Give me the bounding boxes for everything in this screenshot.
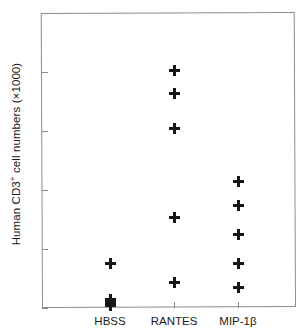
y-tick-mark xyxy=(42,249,48,250)
y-axis-label-superscript: + xyxy=(8,176,17,181)
y-axis-label: Human CD3+ cell numbers (×1000) xyxy=(10,14,22,294)
x-tick-mark xyxy=(238,302,239,308)
y-tick-mark xyxy=(42,13,48,14)
y-axis-label-suffix: cell numbers (×1000) xyxy=(10,63,22,177)
y-tick-mark xyxy=(42,131,48,132)
y-tick-mark xyxy=(42,308,48,309)
y-axis-label-prefix: Human CD3 xyxy=(10,181,22,245)
y-tick-mark xyxy=(42,190,48,191)
y-tick-mark xyxy=(42,72,48,73)
x-tick-label: MIP-1β xyxy=(188,315,288,327)
plot-area xyxy=(41,12,296,308)
scatter-plot-figure: Human CD3+ cell numbers (×1000) 01020304… xyxy=(0,0,303,334)
x-tick-mark xyxy=(174,302,175,308)
x-tick-mark xyxy=(110,302,111,308)
